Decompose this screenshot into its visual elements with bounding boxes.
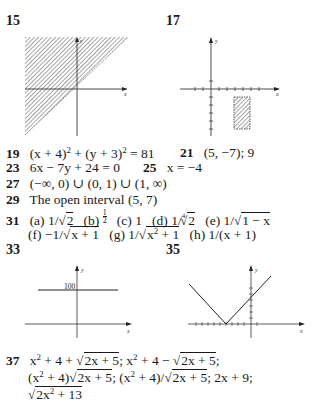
svg-text:x: x xyxy=(275,91,279,97)
problem-33-graph: 100 x y xyxy=(20,262,136,340)
problem-17-graph: x y xyxy=(178,34,284,138)
answer-23: 23 6x − 7y + 24 = 0 xyxy=(6,160,120,176)
shaded-rectangle xyxy=(234,97,250,129)
problem-33-number: 33 xyxy=(6,242,20,258)
svg-text:y: y xyxy=(80,267,84,273)
answer-29: 29 The open interval (5, 7) xyxy=(6,192,157,208)
problem-35-number: 35 xyxy=(166,242,180,258)
problem-15-number: 15 xyxy=(6,13,20,29)
svg-text:100: 100 xyxy=(64,282,76,291)
svg-text:x: x xyxy=(123,91,127,97)
problem-17-number: 17 xyxy=(166,13,180,29)
svg-text:y: y xyxy=(79,38,83,44)
answer-31-row2: (f) −1/√x + 1 (g) 1/√x2 + 1 (h) 1/(x + 1… xyxy=(28,226,256,243)
svg-text:x: x xyxy=(299,328,303,334)
answer-21: 21 (5, −7); 9 xyxy=(180,145,254,161)
absolute-value-curve xyxy=(189,276,271,324)
answer-37-line3: √2x2 + 13 xyxy=(28,386,82,403)
answer-25: 25 x = −4 xyxy=(143,160,202,176)
answer-27: 27 (−∞, 0) ∪ (0, 1) ∪ (1, ∞) xyxy=(6,175,167,192)
problem-15-graph: x y xyxy=(20,34,132,138)
answer-37-line2: (x2 + 4)√2x + 5; (x2 + 4)/√2x + 5; 2x + … xyxy=(28,369,253,386)
svg-text:x: x xyxy=(126,328,130,334)
svg-text:y: y xyxy=(254,267,258,273)
answer-37-line1: 37 x2 + 4 + √2x + 5; x2 + 4 − √2x + 5; xyxy=(6,352,220,369)
problem-35-graph: x y xyxy=(184,262,310,340)
svg-text:y: y xyxy=(214,38,218,44)
